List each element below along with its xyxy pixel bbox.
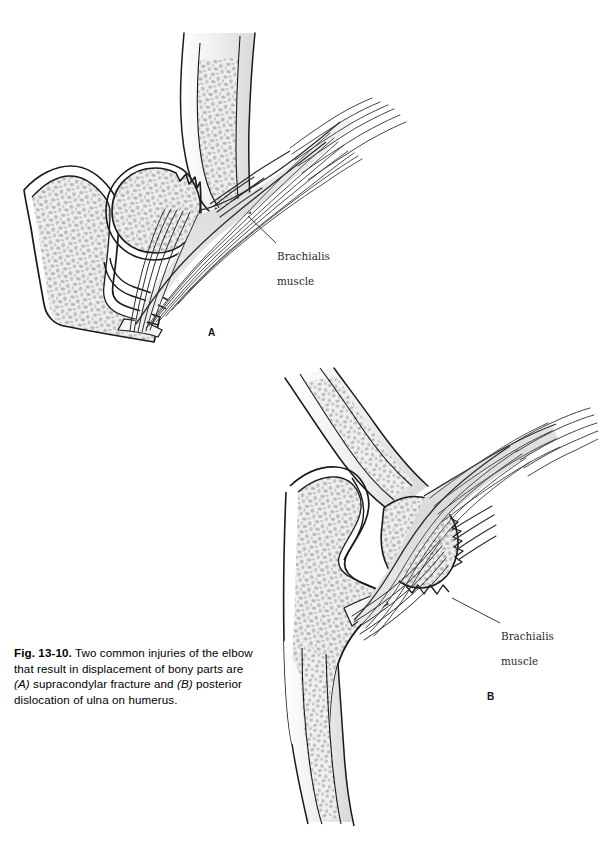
- brachialis-muscle-label-a: Brachialis muscle: [277, 238, 330, 300]
- panel-letter-b: B: [487, 691, 494, 702]
- figure-number: Fig. 13-10.: [14, 646, 72, 659]
- leader-line-brachialis-b: [452, 598, 500, 623]
- caption-marker-b: (B): [177, 677, 193, 690]
- brachialis-muscle-label-b: Brachialis muscle: [501, 618, 554, 680]
- brachialis-label-line1-a: Brachialis: [277, 250, 330, 262]
- panel-b-artwork: [284, 368, 598, 826]
- figure-caption: Fig. 13-10. Two common injuries of the e…: [14, 645, 254, 707]
- brachialis-label-line2-a: muscle: [277, 275, 330, 287]
- panel-letter-a: A: [208, 327, 215, 338]
- caption-marker-a: (A): [14, 677, 30, 690]
- panel-a-artwork: [24, 33, 406, 342]
- figure-root: Brachialis muscle Brachialis muscle A B …: [0, 0, 598, 844]
- brachialis-label-line1-b: Brachialis: [501, 630, 554, 642]
- elbow-injury-illustration: [0, 0, 598, 844]
- brachialis-label-line2-b: muscle: [501, 655, 554, 667]
- caption-text-2: supracondylar fracture and: [30, 677, 177, 690]
